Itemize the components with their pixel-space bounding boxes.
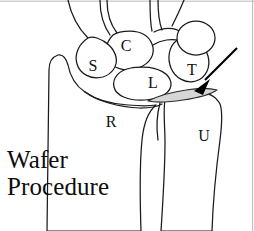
metacarpal-third-line	[107, 0, 117, 33]
caption-line-two: Procedure	[7, 173, 109, 200]
metacarpal-first-line	[68, 0, 88, 38]
metacarpal-fifth-line	[158, 0, 162, 30]
metacarpal-sixth-line	[172, 0, 184, 26]
label-triquetrum: T	[187, 61, 197, 78]
metacarpal-second-line	[100, 0, 110, 35]
ulna-outline	[161, 92, 222, 231]
caption-line-one: Wafer	[7, 146, 68, 173]
label-radius: R	[106, 113, 117, 130]
label-lunate: L	[148, 74, 158, 91]
ulna-medial-contour	[157, 103, 160, 140]
label-capitate: C	[121, 37, 132, 54]
label-scaphoid: S	[89, 57, 98, 74]
wafer-procedure-figure: S C L T R U Wafer Procedure	[0, 0, 254, 231]
arrow-shaft	[205, 48, 237, 80]
metacarpal-fourth-line	[150, 0, 152, 31]
pisiform-outline	[177, 21, 215, 55]
hamate-upper-line	[154, 28, 181, 32]
label-ulna: U	[198, 127, 210, 144]
